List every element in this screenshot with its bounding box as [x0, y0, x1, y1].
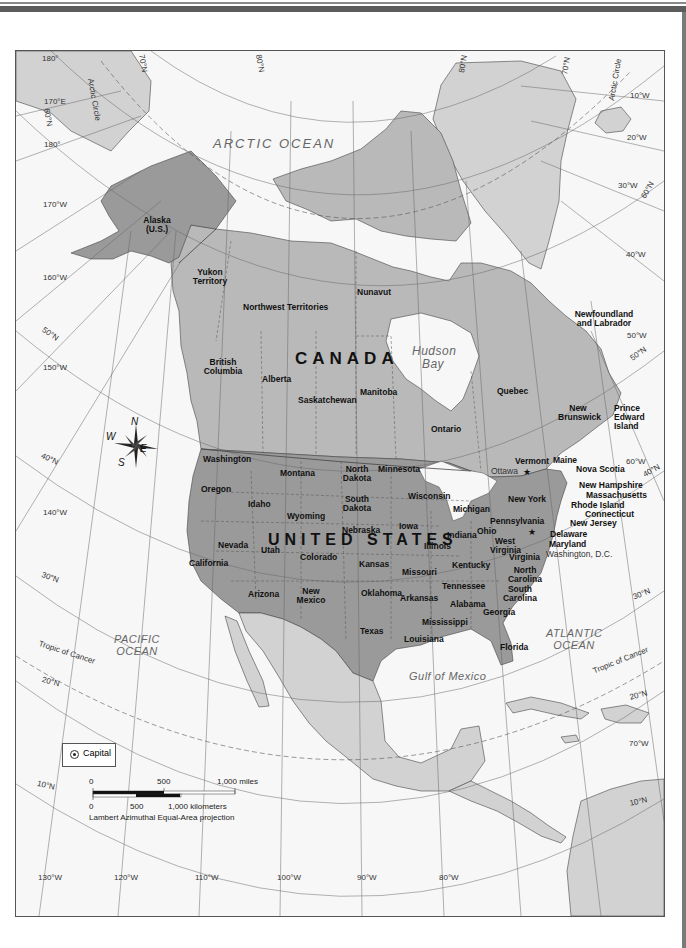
grid-label: 30°W — [618, 182, 638, 190]
state-label-louisiana: Louisiana — [404, 635, 444, 644]
state-label-minnesota: Minnesota — [378, 465, 420, 474]
state-label-iowa: Iowa — [399, 522, 418, 531]
province-label-pei: Prince Edward Island — [614, 404, 652, 431]
grid-label: 70°N — [137, 54, 148, 73]
grid-label: 70°W — [629, 740, 649, 748]
grid-label: 130°W — [38, 874, 62, 882]
state-label-north-dakota: North Dakota — [342, 465, 372, 483]
province-label-alberta: Alberta — [262, 375, 291, 384]
grid-label: 140°W — [43, 509, 67, 517]
top-rule-thin — [0, 2, 686, 4]
province-label-ontario: Ontario — [431, 425, 461, 434]
capital-label-ottawa: Ottawa — [491, 467, 518, 476]
grid-label: 40°W — [626, 251, 646, 259]
state-label-virginia: Virginia — [509, 553, 540, 562]
state-label-florida: Florida — [500, 643, 528, 652]
province-label-saskatchewan: Saskatchewan — [298, 396, 357, 405]
water-label-hudson-bay: Hudson Bay — [412, 345, 454, 370]
scale-km-500: 500 — [130, 802, 143, 811]
siberia-landmass — [16, 51, 151, 151]
scale-miles-500: 500 — [157, 777, 170, 786]
scale-km-0: 0 — [89, 802, 93, 811]
compass-north-label: N — [131, 417, 138, 428]
state-label-arizona: Arizona — [248, 590, 279, 599]
province-label-quebec: Quebec — [497, 387, 528, 396]
state-label-washington: Washington — [203, 455, 251, 464]
province-label-new-brunswick: New Brunswick — [558, 404, 598, 422]
state-label-indiana: Indiana — [447, 531, 477, 540]
state-label-ohio: Ohio — [477, 527, 496, 536]
grid-label: 160°W — [43, 274, 67, 282]
state-label-maryland: Maryland — [549, 540, 586, 549]
legend-capital: Capital — [62, 743, 116, 767]
grid-label: 60°W — [626, 458, 646, 466]
state-label-south-carolina: South Carolina — [500, 585, 540, 603]
state-label-new-hampshire: New Hampshire — [579, 481, 643, 490]
state-label-new-jersey: New Jersey — [570, 519, 617, 528]
province-label-nwt: Northwest Territories — [243, 303, 328, 312]
state-label-tennessee: Tennessee — [442, 582, 485, 591]
state-label-wyoming: Wyoming — [287, 512, 325, 521]
state-label-pennsylvania: Pennsylvania — [490, 517, 544, 526]
state-label-colorado: Colorado — [300, 553, 337, 562]
state-label-georgia: Georgia — [483, 608, 515, 617]
capital-star-icon: ★ — [523, 468, 531, 477]
jamaica-landmass — [561, 735, 579, 743]
state-label-delaware: Delaware — [550, 530, 587, 539]
state-label-oklahoma: Oklahoma — [361, 589, 402, 598]
state-label-north-carolina: North Carolina — [505, 566, 545, 584]
grid-label: 150°W — [43, 364, 67, 372]
state-label-montana: Montana — [280, 469, 315, 478]
grid-label: 180° — [42, 55, 59, 63]
compass-south-label: S — [118, 458, 125, 469]
grid-label: 80°N — [254, 54, 265, 73]
page-edge-rule — [682, 12, 686, 948]
grid-label: 90°W — [357, 874, 377, 882]
state-label-kentucky: Kentucky — [452, 561, 490, 570]
province-label-manitoba: Manitoba — [360, 388, 397, 397]
projection-note: Lambert Azimuthal Equal-Area projection — [89, 813, 234, 822]
map-canvas — [16, 51, 664, 916]
grid-label: 170°W — [43, 201, 67, 209]
legend-capital-label: Capital — [83, 748, 111, 758]
state-label-texas: Texas — [360, 627, 383, 636]
scale-bar — [93, 788, 235, 800]
state-label-mississippi: Mississippi — [422, 618, 468, 627]
compass-east-label: E — [140, 444, 147, 455]
province-label-nova-scotia: Nova Scotia — [576, 465, 625, 474]
state-label-maine: Maine — [553, 456, 577, 465]
water-label-atlantic-ocean: ATLANTIC OCEAN — [546, 628, 602, 651]
state-label-vermont: Vermont — [515, 457, 549, 466]
hispaniola-landmass — [601, 705, 649, 723]
map-frame — [15, 50, 665, 917]
grid-label: 110°W — [195, 874, 219, 882]
central-america-landmass — [449, 781, 566, 843]
grid-label: 60°N — [42, 108, 53, 127]
iceland-landmass — [595, 107, 631, 133]
grid-label: 20°W — [627, 134, 647, 142]
capital-label-washington-dc: Washington, D.C. — [546, 550, 612, 559]
state-label-nevada: Nevada — [218, 541, 248, 550]
province-label-nunavut: Nunavut — [357, 288, 391, 297]
state-label-south-dakota: South Dakota — [342, 495, 372, 513]
grid-label: 80°W — [439, 874, 459, 882]
grid-label: 50°W — [627, 332, 647, 340]
state-label-missouri: Missouri — [402, 568, 437, 577]
state-label-california: California — [189, 559, 228, 568]
state-label-arkansas: Arkansas — [400, 594, 438, 603]
state-label-nebraska: Nebraska — [342, 526, 380, 535]
state-label-kansas: Kansas — [359, 560, 389, 569]
state-label-new-mexico: New Mexico — [296, 587, 326, 605]
grid-label: 170°E — [44, 98, 66, 106]
grid-label: 180° — [44, 141, 61, 149]
province-label-british-columbia: British Columbia — [200, 358, 246, 376]
province-label-newfoundland: Newfoundland and Labrador — [568, 310, 640, 328]
state-label-new-york: New York — [508, 495, 546, 504]
compass-west-label: W — [106, 432, 115, 443]
province-label-yukon: Yukon Territory — [190, 268, 230, 286]
state-label-alaska: Alaska (U.S.) — [140, 216, 174, 234]
water-label-pacific-ocean: PACIFIC OCEAN — [112, 634, 162, 657]
grid-label: 120°W — [114, 874, 138, 882]
state-label-illinois: Illinois — [424, 542, 451, 551]
grid-label: 100°W — [277, 874, 301, 882]
